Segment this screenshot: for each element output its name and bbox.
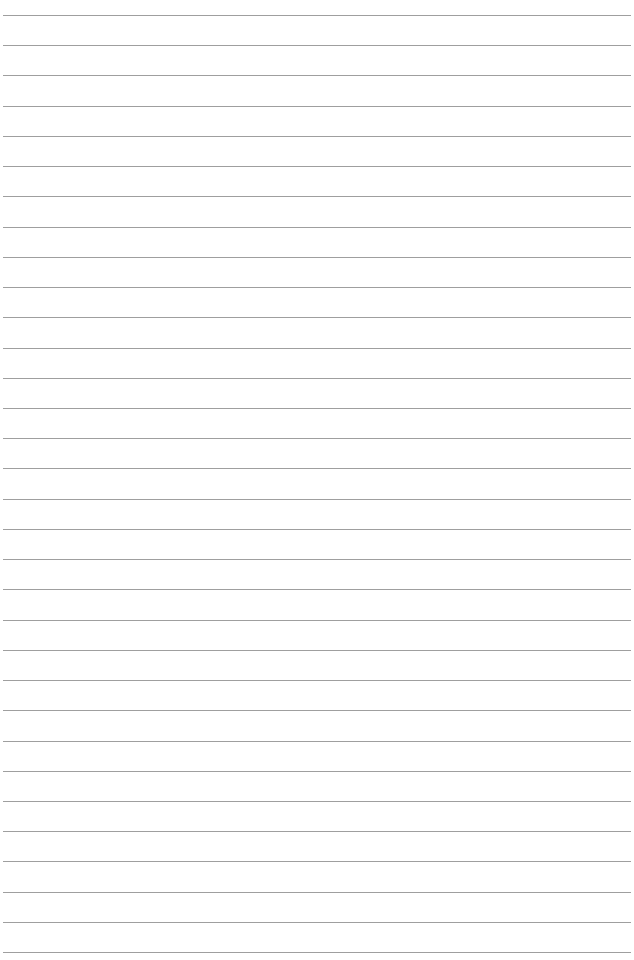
ruled-line <box>3 257 631 258</box>
lined-paper-page <box>0 0 634 960</box>
ruled-line <box>3 287 631 288</box>
ruled-line <box>3 45 631 46</box>
ruled-line <box>3 499 631 500</box>
ruled-line <box>3 559 631 560</box>
ruled-line <box>3 438 631 439</box>
ruled-line <box>3 680 631 681</box>
ruled-line <box>3 106 631 107</box>
ruled-line <box>3 710 631 711</box>
ruled-line <box>3 136 631 137</box>
ruled-line <box>3 589 631 590</box>
ruled-line <box>3 348 631 349</box>
ruled-line <box>3 196 631 197</box>
ruled-line <box>3 861 631 862</box>
ruled-line <box>3 801 631 802</box>
ruled-line <box>3 741 631 742</box>
ruled-line <box>3 922 631 923</box>
ruled-line <box>3 952 631 953</box>
ruled-line <box>3 408 631 409</box>
ruled-line <box>3 771 631 772</box>
ruled-line <box>3 317 631 318</box>
ruled-line <box>3 75 631 76</box>
ruled-line <box>3 227 631 228</box>
ruled-line <box>3 650 631 651</box>
ruled-line <box>3 831 631 832</box>
ruled-line <box>3 378 631 379</box>
ruled-line <box>3 892 631 893</box>
ruled-line <box>3 15 631 16</box>
ruled-line <box>3 529 631 530</box>
ruled-line <box>3 166 631 167</box>
ruled-line <box>3 620 631 621</box>
ruled-line <box>3 468 631 469</box>
